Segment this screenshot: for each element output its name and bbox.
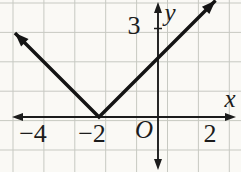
y-axis-label: y xyxy=(161,0,176,26)
graph-figure: −4−223xyO xyxy=(0,0,241,172)
x-tick-label: 2 xyxy=(204,119,217,148)
x-axis-label: x xyxy=(223,85,235,112)
y-tick-label: 3 xyxy=(128,11,141,40)
x-tick-label: −2 xyxy=(78,119,106,148)
origin-label: O xyxy=(135,116,153,143)
graph-canvas: −4−223xyO xyxy=(0,0,241,172)
x-tick-label: −4 xyxy=(19,119,47,148)
